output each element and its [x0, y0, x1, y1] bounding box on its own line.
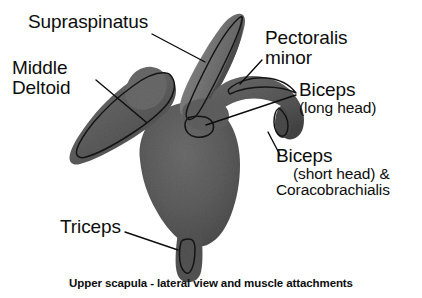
label-pectoralis-minor-line2: minor [265, 48, 347, 68]
label-pectoralis-minor: Pectoralis minor [265, 28, 347, 68]
label-biceps-short-head-title: Biceps [276, 146, 390, 166]
label-biceps-short-head: Biceps (short head) & Coracobrachialis [276, 146, 390, 198]
label-supraspinatus: Supraspinatus [28, 12, 148, 32]
label-middle-deltoid-line1: Middle [12, 58, 70, 78]
label-pectoralis-minor-line1: Pectoralis [265, 28, 347, 48]
label-middle-deltoid: Middle Deltoid [12, 58, 70, 98]
label-middle-deltoid-line2: Deltoid [12, 78, 70, 98]
label-biceps-long-head-subtitle: (long head) [299, 100, 376, 116]
label-triceps-text: Triceps [60, 217, 121, 237]
label-biceps-short-head-subtitle-2: Coracobrachialis [276, 182, 390, 198]
figure-caption: Upper scapula - lateral view and muscle … [0, 277, 422, 289]
anatomy-figure: Supraspinatus Middle Deltoid Pectoralis … [0, 0, 422, 298]
label-supraspinatus-text: Supraspinatus [28, 12, 148, 32]
label-biceps-long-head: Biceps (long head) [299, 80, 376, 116]
label-biceps-long-head-title: Biceps [299, 80, 376, 100]
label-triceps: Triceps [60, 217, 121, 237]
leader-line-triceps [125, 232, 178, 250]
label-biceps-short-head-subtitle-1: (short head) & [276, 166, 390, 182]
leader-line-supraspinatus [152, 34, 205, 62]
